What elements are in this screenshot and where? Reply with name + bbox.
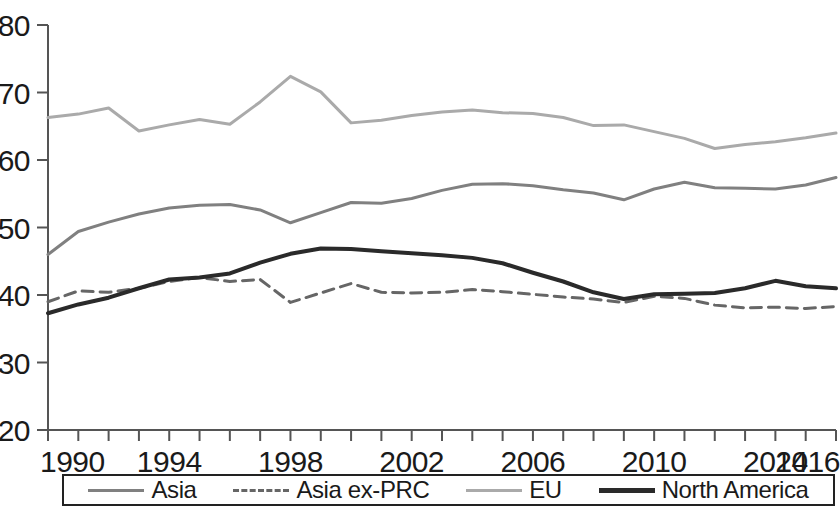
series-line-eu	[48, 76, 836, 148]
legend-label: Asia	[151, 478, 196, 502]
line-chart: 80706050403020 1990199419982002200620102…	[0, 0, 840, 509]
chart-legend: AsiaAsia ex-PRCEUNorth America	[62, 474, 835, 506]
legend-swatch-icon	[233, 489, 289, 492]
y-tick-label: 30	[0, 347, 30, 380]
legend-label: EU	[529, 478, 562, 502]
y-tick-label: 50	[0, 212, 30, 245]
legend-swatch-icon	[466, 489, 522, 492]
y-axis-group	[37, 25, 836, 430]
data-series-group	[48, 76, 836, 313]
chart-plot-area: 80706050403020 1990199419982002200620102…	[0, 0, 840, 509]
y-tick-label: 60	[0, 144, 30, 177]
y-tick-label: 80	[0, 9, 30, 42]
y-tick-labels: 80706050403020	[0, 9, 30, 447]
legend-item-asia-ex-prc: Asia ex-PRC	[233, 478, 429, 502]
legend-item-asia: Asia	[88, 478, 196, 502]
series-line-asia	[48, 178, 836, 255]
legend-label: North America	[662, 478, 809, 502]
legend-swatch-icon	[88, 489, 144, 492]
series-line-north-america	[48, 248, 836, 313]
y-tick-label: 40	[0, 279, 30, 312]
legend-item-eu: EU	[466, 478, 562, 502]
y-tick-label: 20	[0, 414, 30, 447]
legend-swatch-icon	[599, 488, 655, 493]
x-axis-group	[48, 430, 836, 441]
y-tick-label: 70	[0, 77, 30, 110]
axis-lines	[48, 25, 836, 430]
legend-item-north-america: North America	[599, 478, 809, 502]
legend-label: Asia ex-PRC	[296, 478, 429, 502]
